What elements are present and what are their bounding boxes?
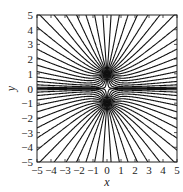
- y-tick-label: 3: [28, 38, 34, 50]
- x-tick-label: 1: [118, 164, 124, 176]
- y-tick-label: 1: [28, 68, 34, 80]
- x-tick-label: −2: [73, 164, 85, 176]
- field-lines: [23, 0, 183, 177]
- x-tick-label: −4: [45, 164, 57, 176]
- field-line: [23, 69, 107, 81]
- y-tick-label: 0: [28, 83, 34, 95]
- field-line: [23, 52, 106, 76]
- x-axis-label: x: [103, 175, 110, 189]
- y-tick-label: 4: [28, 24, 34, 36]
- y-tick-label: −1: [21, 97, 33, 109]
- field-line-plot: −5−4−3−2−1012345 −5−4−3−2−1012345 x y: [0, 0, 183, 192]
- field-line: [23, 15, 106, 73]
- y-tick-label: 2: [28, 53, 34, 65]
- y-tick-label: −3: [21, 127, 33, 139]
- x-tick-label: 3: [146, 164, 152, 176]
- y-tick-label: −4: [21, 141, 33, 153]
- y-tick-label: −2: [21, 112, 33, 124]
- y-tick-labels: −5−4−3−2−1012345: [21, 9, 33, 168]
- x-tick-label: 4: [160, 164, 166, 176]
- y-tick-label: −5: [21, 156, 33, 168]
- y-tick-label: 5: [28, 9, 34, 21]
- y-axis-label: y: [4, 85, 18, 92]
- x-tick-label: 5: [174, 164, 180, 176]
- x-tick-label: −3: [59, 164, 71, 176]
- field-line: [23, 96, 107, 108]
- x-tick-label: 2: [132, 164, 138, 176]
- field-line: [108, 0, 183, 73]
- x-tick-label: −1: [87, 164, 99, 176]
- field-line: [23, 103, 106, 161]
- field-line: [23, 101, 106, 125]
